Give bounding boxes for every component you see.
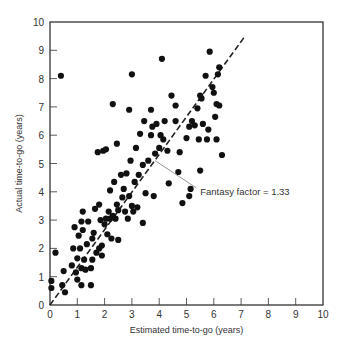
annotation-label: Fantasy factor = 1.33 xyxy=(200,186,290,197)
y-tick-label: 1 xyxy=(38,272,44,283)
data-point xyxy=(89,257,95,263)
data-point xyxy=(103,146,109,152)
data-point xyxy=(70,245,76,251)
x-axis-title: Estimated time-to-go (years) xyxy=(130,325,244,335)
y-tick-label: 3 xyxy=(38,215,44,226)
data-point xyxy=(122,209,128,215)
data-point xyxy=(77,245,83,251)
data-point xyxy=(145,158,151,164)
x-tick-label: 10 xyxy=(317,309,329,320)
data-point xyxy=(134,204,140,210)
data-point xyxy=(164,148,170,154)
x-tick-label: 0 xyxy=(47,309,53,320)
y-tick-label: 4 xyxy=(38,187,44,198)
data-point xyxy=(212,114,218,120)
data-point xyxy=(85,218,91,224)
y-tick-label: 10 xyxy=(33,17,45,28)
data-point xyxy=(126,193,132,199)
data-point xyxy=(137,131,143,137)
x-tick-label: 7 xyxy=(238,309,244,320)
scatter-chart: 012345678910 012345678910 Fantasy factor… xyxy=(0,0,344,349)
y-tick-label: 5 xyxy=(38,159,44,170)
y-axis-ticks: 012345678910 xyxy=(33,17,57,311)
data-point xyxy=(82,267,88,273)
data-point xyxy=(58,73,64,79)
data-point xyxy=(52,250,58,256)
data-point xyxy=(196,136,202,142)
y-tick-label: 6 xyxy=(38,130,44,141)
data-point xyxy=(118,172,124,178)
annotation: Fantasy factor = 1.33 xyxy=(155,161,290,197)
data-point xyxy=(108,235,114,241)
data-point xyxy=(159,56,165,62)
data-point xyxy=(216,102,222,108)
data-point xyxy=(219,152,225,158)
data-point xyxy=(153,121,159,127)
data-point xyxy=(140,162,146,168)
data-point xyxy=(172,118,178,124)
data-point xyxy=(71,224,77,230)
data-point xyxy=(168,92,174,98)
data-point xyxy=(186,193,192,199)
data-point xyxy=(114,201,120,207)
data-point xyxy=(205,126,211,132)
data-point xyxy=(74,255,80,261)
x-tick-label: 2 xyxy=(102,309,108,320)
data-point xyxy=(74,276,80,282)
data-point xyxy=(129,203,135,209)
data-point xyxy=(200,121,206,127)
data-point xyxy=(207,49,213,55)
data-point xyxy=(156,145,162,151)
data-point xyxy=(209,84,215,90)
data-point xyxy=(127,158,133,164)
y-tick-label: 9 xyxy=(38,45,44,56)
data-point xyxy=(141,118,147,124)
data-point xyxy=(48,285,54,291)
data-point xyxy=(62,289,68,295)
data-point xyxy=(88,282,94,288)
data-point xyxy=(213,136,219,142)
data-point xyxy=(99,252,105,258)
x-tick-label: 3 xyxy=(129,309,135,320)
data-point xyxy=(211,90,217,96)
data-point xyxy=(84,241,90,247)
x-tick-label: 5 xyxy=(184,309,190,320)
data-point xyxy=(216,64,222,70)
data-point xyxy=(99,242,105,248)
data-point xyxy=(61,268,67,274)
data-point xyxy=(125,216,131,222)
data-point xyxy=(89,235,95,241)
y-tick-label: 0 xyxy=(38,300,44,311)
data-point xyxy=(78,218,84,224)
data-point xyxy=(115,207,121,213)
y-tick-label: 7 xyxy=(38,102,44,113)
data-point xyxy=(80,209,86,215)
data-point xyxy=(160,136,166,142)
data-point xyxy=(110,101,116,107)
y-axis-title: Actual time-to-go (years) xyxy=(14,114,24,213)
data-point xyxy=(81,257,87,263)
data-point xyxy=(152,150,158,156)
data-point xyxy=(76,233,82,239)
data-point xyxy=(151,193,157,199)
plot-border xyxy=(50,22,323,305)
x-tick-label: 1 xyxy=(75,309,81,320)
data-point xyxy=(59,282,65,288)
data-point xyxy=(186,124,192,130)
data-point xyxy=(115,237,121,243)
data-point xyxy=(121,186,127,192)
data-point xyxy=(123,170,129,176)
data-point xyxy=(80,227,86,233)
data-point xyxy=(48,278,54,284)
data-point xyxy=(91,230,97,236)
data-point xyxy=(78,282,84,288)
plot-frame xyxy=(50,22,323,305)
data-point xyxy=(107,187,113,193)
x-tick-label: 9 xyxy=(293,309,299,320)
data-point xyxy=(148,132,154,138)
data-point xyxy=(197,167,203,173)
data-point xyxy=(215,71,221,77)
data-point xyxy=(204,136,210,142)
x-tick-label: 6 xyxy=(211,309,217,320)
data-point xyxy=(162,118,168,124)
